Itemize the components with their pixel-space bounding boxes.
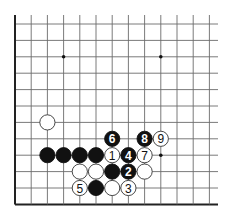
black-stone-disc (88, 148, 103, 163)
star-point (159, 153, 163, 157)
move-number-label: 9 (157, 132, 164, 146)
star-point (62, 55, 66, 59)
black-stone-move-8: 8 (137, 131, 152, 146)
black-stone-disc (40, 148, 55, 163)
move-number-label: 7 (141, 149, 148, 163)
white-stone-disc (72, 164, 87, 179)
black-stone-disc (105, 164, 120, 179)
white-stone (72, 164, 87, 179)
move-number-label: 6 (109, 132, 116, 146)
white-stone-disc (88, 164, 103, 179)
white-stone-move-1: 1 (105, 148, 120, 163)
black-stone (72, 148, 87, 163)
white-stone-disc (105, 180, 120, 195)
black-stone (105, 164, 120, 179)
white-stone-move-9: 9 (153, 131, 168, 146)
black-stone-move-4: 4 (121, 148, 136, 163)
white-stone-move-7: 7 (137, 148, 152, 163)
black-stone-move-6: 6 (105, 131, 120, 146)
black-stone (40, 148, 55, 163)
move-number-label: 5 (76, 182, 83, 196)
move-number-label: 8 (141, 132, 148, 146)
white-stone (40, 115, 55, 130)
white-stone-move-5: 5 (72, 180, 87, 195)
black-stone (88, 180, 103, 195)
white-stone (88, 164, 103, 179)
white-stone-disc (137, 164, 152, 179)
black-stone-disc (88, 180, 103, 195)
white-stone-disc (40, 115, 55, 130)
black-stone-move-2: 2 (121, 164, 136, 179)
star-point (159, 55, 163, 59)
black-stone (88, 148, 103, 163)
white-stone (105, 180, 120, 195)
move-number-label: 3 (125, 182, 132, 196)
black-stone (56, 148, 71, 163)
move-number-label: 2 (125, 165, 132, 179)
white-stone-move-3: 3 (121, 180, 136, 195)
move-number-label: 4 (125, 149, 132, 163)
go-board: 689147253 (0, 0, 231, 219)
black-stone-disc (72, 148, 87, 163)
white-stone (137, 164, 152, 179)
black-stone-disc (56, 148, 71, 163)
move-number-label: 1 (109, 149, 116, 163)
